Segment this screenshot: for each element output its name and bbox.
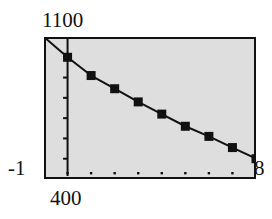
x-tick xyxy=(137,172,139,174)
x-tick xyxy=(255,172,256,174)
plot-canvas xyxy=(44,37,256,179)
x-tick xyxy=(231,172,233,174)
data-point-marker xyxy=(63,53,72,62)
data-point-marker xyxy=(87,71,96,80)
data-point-marker xyxy=(181,122,190,131)
data-point-marker xyxy=(228,143,237,152)
data-point-marker xyxy=(134,97,143,106)
figure-plot: 1100 400 -1 8 xyxy=(0,0,272,219)
x-tick xyxy=(44,172,45,174)
x-tick xyxy=(208,172,210,174)
x-tick xyxy=(113,172,115,174)
data-point-marker xyxy=(204,132,213,141)
x-tick xyxy=(184,172,186,174)
plot-frame xyxy=(44,37,256,179)
x-tick xyxy=(161,172,163,174)
data-point-marker xyxy=(157,110,166,119)
x-axis-min-label: -1 xyxy=(8,158,26,179)
y-axis-max-label: 1100 xyxy=(42,10,83,31)
data-point-marker xyxy=(252,154,257,163)
data-point-marker xyxy=(110,84,119,93)
x-tick xyxy=(90,172,92,174)
y-axis-min-label: 400 xyxy=(50,188,82,209)
